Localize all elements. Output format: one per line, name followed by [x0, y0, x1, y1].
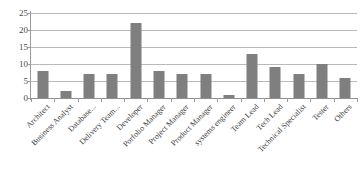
y-tick-label: 10 [4, 60, 28, 69]
bars [31, 13, 357, 98]
x-axis-tick-labels: ArchitectBusiness AnalystDatabase...Deli… [31, 103, 357, 175]
x-tick-label-text: Tester [311, 103, 330, 122]
y-tick-label: 15 [4, 43, 28, 52]
x-tick-mark [31, 98, 32, 102]
bar-slot [334, 13, 357, 98]
bar-chart: 0510152025 ArchitectBusiness AnalystData… [0, 0, 364, 175]
bar-slot [31, 13, 54, 98]
bar[interactable] [37, 71, 48, 98]
y-tick-label: 25 [4, 9, 28, 18]
y-tick-label: 20 [4, 26, 28, 35]
y-tick-label: 5 [4, 77, 28, 86]
y-tick-label: 0 [4, 94, 28, 103]
y-axis-tick-labels: 0510152025 [0, 0, 28, 175]
x-tick-label-text: Others [333, 103, 354, 124]
